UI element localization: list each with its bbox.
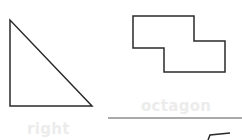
right-label: right [27, 122, 70, 137]
octagon-label: octagon [141, 99, 211, 114]
right-triangle-shape [10, 20, 92, 106]
worksheet-canvas [0, 0, 242, 140]
octagon-shape [133, 16, 225, 72]
partial-shape [208, 133, 230, 140]
